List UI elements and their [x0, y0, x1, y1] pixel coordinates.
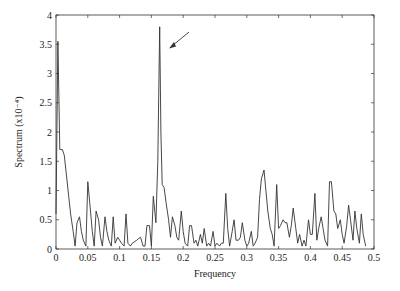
x-tick-label: 0.45 — [333, 252, 351, 263]
x-axis-label: Frequency — [194, 268, 236, 279]
plot-frame — [56, 15, 374, 249]
y-tick-label: 2.5 — [40, 97, 53, 108]
y-tick-label: 1 — [47, 185, 52, 196]
y-tick-label: 3 — [47, 68, 52, 79]
y-tick-label: 4 — [47, 10, 52, 21]
y-tick-label: 3.5 — [40, 39, 53, 50]
x-tick-label: 0.5 — [368, 252, 381, 263]
spectrum-chart: 00.511.522.533.54 00.050.10.150.20.250.3… — [0, 0, 400, 291]
x-tick-label: 0.25 — [206, 252, 224, 263]
x-tick-label: 0.1 — [113, 252, 126, 263]
y-tick-label: 0 — [47, 244, 52, 255]
y-tick-label: 0.5 — [40, 214, 53, 225]
x-tick-label: 0.4 — [304, 252, 317, 263]
x-tick-label: 0.3 — [241, 252, 254, 263]
peak-arrow — [169, 32, 189, 49]
y-axis-label: Spectrum (x10⁻⁴) — [13, 96, 25, 167]
x-tick-label: 0.2 — [177, 252, 190, 263]
y-tick-label: 1.5 — [40, 156, 53, 167]
x-axis-ticks: 00.050.10.150.20.250.30.350.40.450.5 — [54, 15, 381, 263]
x-tick-label: 0.35 — [270, 252, 288, 263]
spectrum-line — [56, 27, 366, 246]
y-tick-label: 2 — [47, 127, 52, 138]
x-tick-label: 0.05 — [79, 252, 97, 263]
x-tick-label: 0 — [54, 252, 59, 263]
x-tick-label: 0.15 — [143, 252, 161, 263]
y-axis-ticks: 00.511.522.533.54 — [40, 10, 375, 255]
